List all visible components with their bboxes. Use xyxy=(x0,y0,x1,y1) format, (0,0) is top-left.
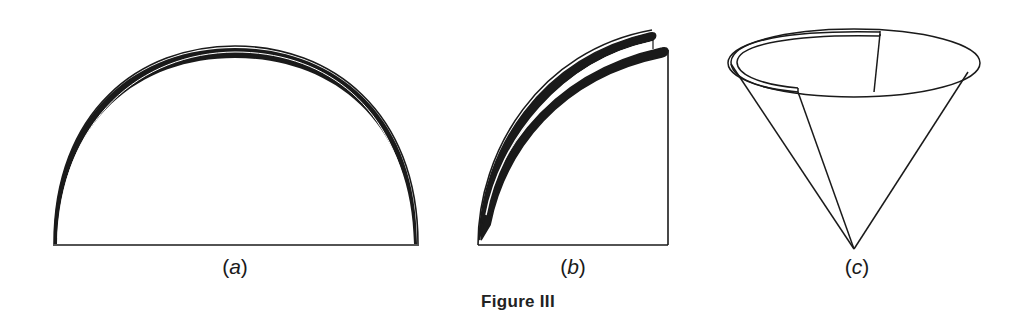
panel-b-quarter xyxy=(478,30,668,245)
figure-caption: Figure III xyxy=(481,292,555,312)
panel-b-label: (b) xyxy=(560,255,586,279)
panel-c-cone xyxy=(728,29,980,249)
panel-a-semicircle xyxy=(53,46,419,245)
figure-drawing xyxy=(0,0,1019,333)
panel-c-label: (c) xyxy=(845,255,870,279)
panel-a-label: (a) xyxy=(222,255,248,279)
